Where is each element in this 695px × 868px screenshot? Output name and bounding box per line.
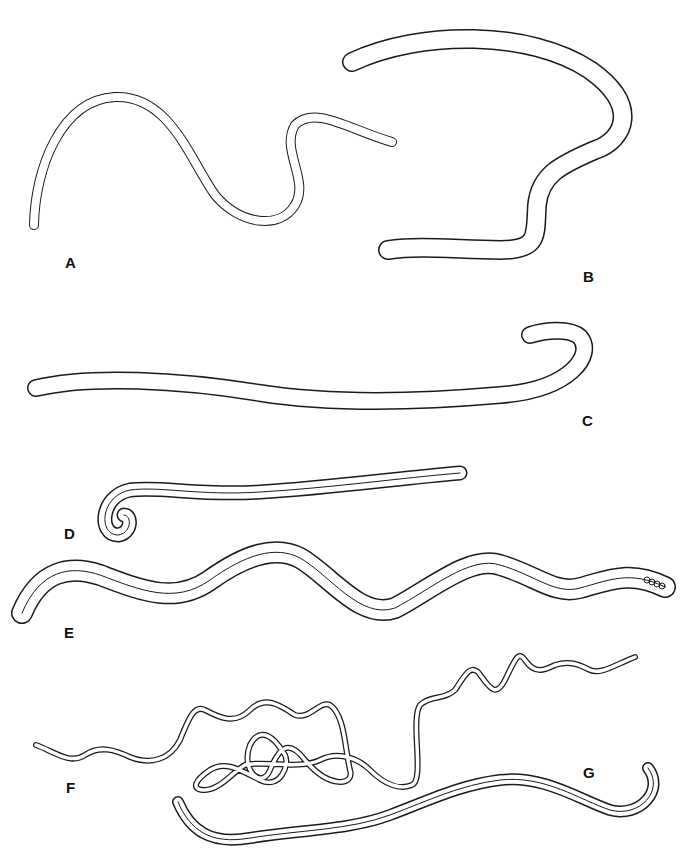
worm-d — [105, 473, 460, 535]
label-f: F — [66, 779, 75, 796]
worm-c — [36, 331, 584, 401]
worm-a — [34, 97, 392, 225]
label-b: B — [583, 268, 594, 285]
label-c: C — [582, 412, 593, 429]
worm-e — [22, 552, 665, 613]
label-d: D — [64, 525, 75, 542]
worm-f — [36, 656, 635, 790]
label-g: G — [583, 764, 595, 781]
label-e: E — [64, 624, 74, 641]
label-a: A — [65, 254, 76, 271]
worm-figure — [0, 0, 695, 868]
